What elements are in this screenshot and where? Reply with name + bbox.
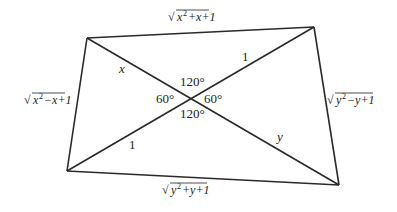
angle-bottom-label: 120° <box>180 106 205 121</box>
top-base: x <box>176 10 183 24</box>
bottom-base: y <box>170 183 177 197</box>
angle-right-label: 60° <box>204 91 222 106</box>
right-side-label: √ y 2 −y+1 <box>327 92 375 107</box>
right-base: y <box>335 93 342 107</box>
diagonal-ac <box>87 38 339 185</box>
segment-lower-right-label: y <box>275 129 283 144</box>
quadrilateral-diagram: √ x 2 +x+1 √ x 2 −x+1 √ y 2 −y+1 √ y 2 +… <box>0 0 397 212</box>
angle-left-label: 60° <box>156 91 174 106</box>
right-exp: 2 <box>342 92 346 101</box>
segment-upper-right-label: 1 <box>242 49 249 64</box>
top-side-label: √ x 2 +x+1 <box>168 9 216 24</box>
bottom-side-label: √ y 2 +y+1 <box>162 182 210 197</box>
sqrt-symbol: √ <box>162 183 169 197</box>
top-rest: +x+1 <box>188 10 216 24</box>
bottom-rest: +y+1 <box>182 183 210 197</box>
segment-upper-left-label: x <box>118 61 125 76</box>
left-rest: −x+1 <box>44 93 72 107</box>
sqrt-symbol: √ <box>168 10 175 24</box>
left-side-label: √ x 2 −x+1 <box>24 92 72 107</box>
sqrt-symbol: √ <box>327 93 334 107</box>
top-side <box>87 27 314 38</box>
angle-top-label: 120° <box>180 74 205 89</box>
top-exp: 2 <box>183 9 187 18</box>
left-base: x <box>32 93 39 107</box>
right-rest: −y+1 <box>347 93 375 107</box>
segment-lower-left-label: 1 <box>129 137 136 152</box>
bottom-exp: 2 <box>177 182 181 191</box>
left-exp: 2 <box>39 92 43 101</box>
sqrt-symbol: √ <box>24 93 31 107</box>
